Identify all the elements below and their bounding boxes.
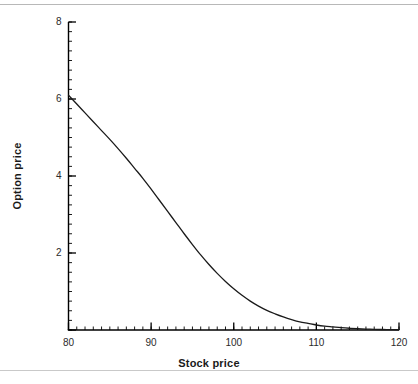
y-axis-title: Option price: [11, 121, 23, 231]
y-tick-label-2: 2: [44, 247, 62, 258]
x-axis-title: Stock price: [0, 357, 418, 369]
y-tick-label-4: 4: [44, 170, 62, 181]
option-price-line-chart: [0, 0, 418, 384]
x-tick-label-110: 110: [301, 337, 331, 348]
x-tick-label-80: 80: [54, 337, 84, 348]
x-tick-label-120: 120: [384, 337, 414, 348]
y-tick-label-6: 6: [44, 93, 62, 104]
chart-figure: 8090100110120 2468 Stock price Option pr…: [0, 0, 418, 384]
y-tick-label-8: 8: [44, 16, 62, 27]
x-tick-label-100: 100: [219, 337, 249, 348]
y-axis-major-ticks: [69, 22, 77, 330]
x-tick-label-90: 90: [136, 337, 166, 348]
option-price-curve: [69, 95, 400, 330]
